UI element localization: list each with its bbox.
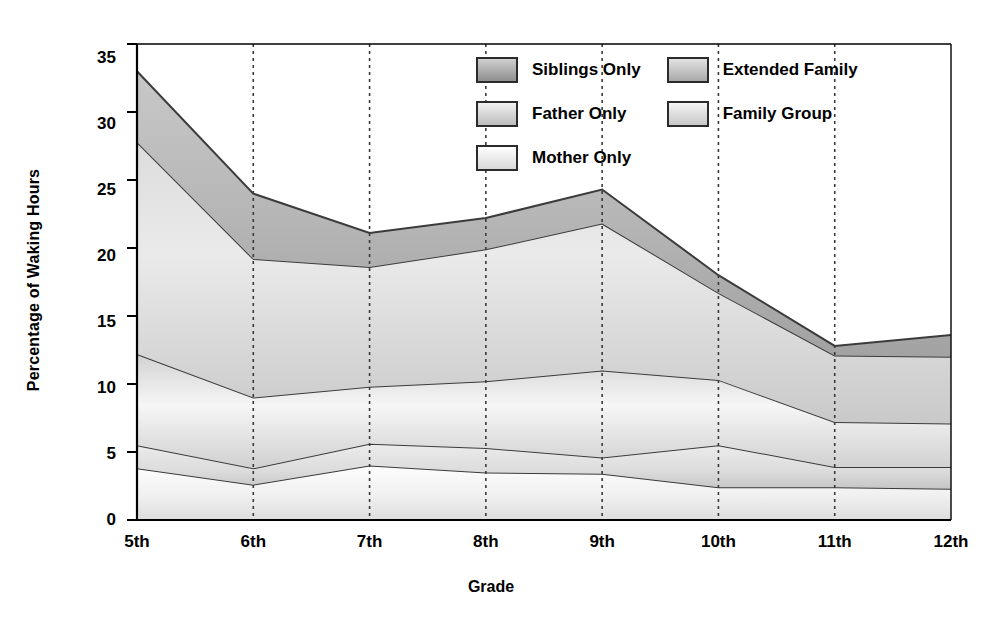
legend-column-left: Siblings Only Father Only Mother Only xyxy=(476,52,641,176)
legend-column-right: Extended Family Family Group xyxy=(667,52,858,176)
legend-label-siblings-only: Siblings Only xyxy=(532,60,641,80)
area-chart: Percentage of Waking Hours 0 5 10 15 20 … xyxy=(0,0,982,617)
father-only-swatch xyxy=(476,101,518,127)
x-tick-5th: 5th xyxy=(124,532,150,552)
y-axis-ticks xyxy=(127,44,137,520)
legend-item-siblings-only[interactable]: Siblings Only xyxy=(476,52,641,88)
x-axis-title: Grade xyxy=(0,578,982,596)
x-tick-12th: 12th xyxy=(934,532,969,552)
legend-label-mother-only: Mother Only xyxy=(532,148,631,168)
x-tick-7th: 7th xyxy=(357,532,383,552)
legend-item-family-group[interactable]: Family Group xyxy=(667,96,858,132)
siblings-only-swatch xyxy=(476,57,518,83)
extended-family-swatch xyxy=(667,57,709,83)
legend-label-extended-family: Extended Family xyxy=(723,60,858,80)
x-tick-6th: 6th xyxy=(241,532,267,552)
x-tick-11th: 11th xyxy=(818,532,852,552)
legend-label-father-only: Father Only xyxy=(532,104,626,124)
mother-only-swatch xyxy=(476,145,518,171)
legend-label-family-group: Family Group xyxy=(723,104,833,124)
x-tick-10th: 10th xyxy=(701,532,736,552)
x-tick-8th: 8th xyxy=(473,532,499,552)
legend-item-mother-only[interactable]: Mother Only xyxy=(476,140,641,176)
legend-item-extended-family[interactable]: Extended Family xyxy=(667,52,858,88)
x-tick-9th: 9th xyxy=(589,532,615,552)
legend-item-father-only[interactable]: Father Only xyxy=(476,96,641,132)
family-group-swatch xyxy=(667,101,709,127)
chart-legend: Siblings Only Father Only Mother Only Ex… xyxy=(476,52,858,176)
